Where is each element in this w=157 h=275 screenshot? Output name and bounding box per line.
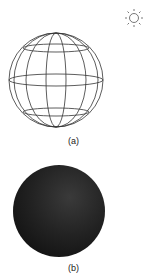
shaded-sphere bbox=[13, 165, 105, 257]
panel-label-b: (b) bbox=[68, 263, 79, 273]
panel-label-a: (a) bbox=[68, 136, 79, 146]
sun-icon bbox=[125, 9, 143, 27]
wireframe-sphere bbox=[9, 33, 103, 127]
